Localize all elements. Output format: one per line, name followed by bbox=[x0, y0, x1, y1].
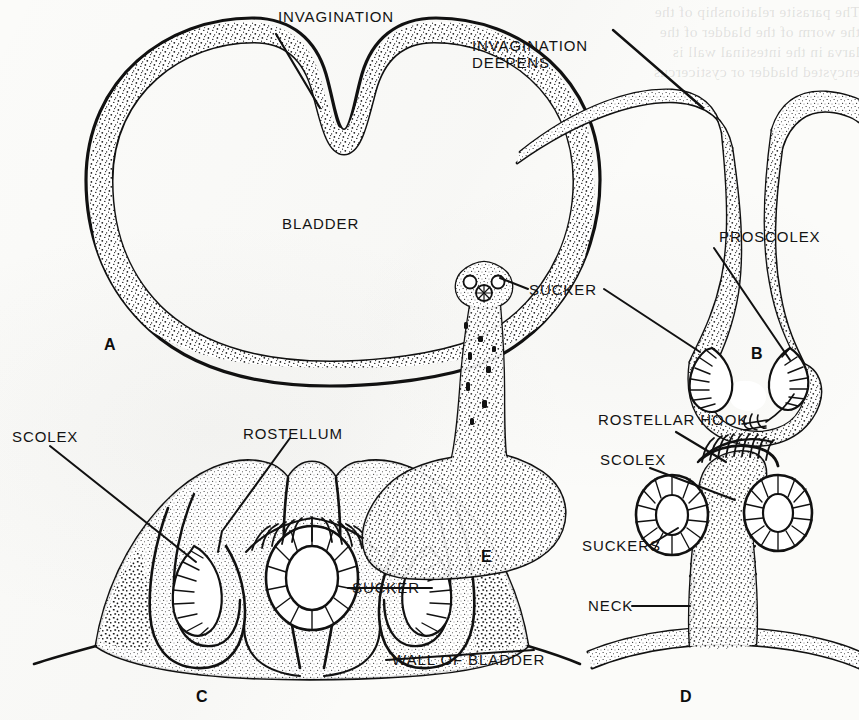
label-sucker-center: SUCKER bbox=[529, 281, 597, 298]
label-rostellar-hook: ROSTELLAR HOOK bbox=[598, 411, 748, 428]
figure-page: The parasite relationship of the the wor… bbox=[0, 0, 859, 720]
label-bladder: BLADDER bbox=[282, 215, 359, 232]
label-scolex-c: SCOLEX bbox=[12, 428, 78, 445]
label-proscolex: PROSCOLEX bbox=[719, 228, 820, 245]
panel-letter-b: B bbox=[751, 345, 763, 363]
diagram-artwork bbox=[0, 0, 859, 720]
label-suckers-d: SUCKERS bbox=[582, 537, 661, 554]
label-wall-of-bladder: WALL OF BLADDER bbox=[392, 651, 545, 668]
label-invagination: INVAGINATION bbox=[278, 8, 394, 25]
panel-letter-a: A bbox=[104, 336, 116, 354]
label-neck: NECK bbox=[588, 597, 633, 614]
label-scolex-d: SCOLEX bbox=[600, 451, 666, 468]
label-sucker-c: SUCKER bbox=[352, 579, 420, 596]
label-invagination-deepens: INVAGINATION DEEPENS bbox=[472, 37, 588, 71]
panel-letter-e: E bbox=[481, 548, 492, 566]
panel-letter-c: C bbox=[196, 688, 208, 706]
panel-letter-d: D bbox=[680, 688, 692, 706]
label-rostellum: ROSTELLUM bbox=[243, 425, 343, 442]
panel-a-artwork bbox=[86, 18, 600, 386]
